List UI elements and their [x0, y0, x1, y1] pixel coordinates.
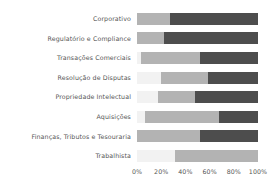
category-label: Finanças, Tributos e Tesouraria: [2, 127, 134, 147]
stacked-bar: [137, 111, 258, 123]
chart-row: Trabalhista: [0, 146, 271, 166]
stacked-bar: [137, 150, 258, 162]
bar-segment: [195, 91, 258, 103]
bar-segment: [200, 130, 258, 142]
chart-row: Corporativo: [0, 9, 271, 29]
chart-row: Transações Comerciais: [0, 48, 271, 68]
stacked-bar: [137, 13, 258, 25]
category-label: Resolução de Disputas: [2, 68, 134, 88]
category-label: Regulatório e Compliance: [2, 29, 134, 49]
chart-row: Resolução de Disputas: [0, 68, 271, 88]
bar-segment: [158, 91, 196, 103]
x-axis: 0%20%40%60%80%100%: [137, 168, 258, 180]
category-label: Propriedade Intelectual: [2, 87, 134, 107]
bar-segment: [137, 111, 145, 123]
stacked-bar: [137, 52, 258, 64]
bar-segment: [208, 72, 258, 84]
bar-segment: [137, 32, 164, 44]
bar-segment: [137, 150, 175, 162]
category-label: Trabalhista: [2, 146, 134, 166]
bar-segment: [137, 13, 170, 25]
bar-segment: [141, 52, 200, 64]
bar-segment: [161, 72, 208, 84]
category-label: Aquisições: [2, 107, 134, 127]
chart-row: Finanças, Tributos e Tesouraria: [0, 127, 271, 147]
bar-segment: [175, 150, 258, 162]
stacked-bar: [137, 32, 258, 44]
bar-segment: [137, 130, 200, 142]
x-axis-tick: 0%: [132, 168, 142, 175]
category-label: Corporativo: [2, 9, 134, 29]
stacked-bar-chart: CorporativoRegulatório e ComplianceTrans…: [0, 0, 271, 187]
x-axis-tick: 40%: [178, 168, 192, 175]
category-label: Transações Comerciais: [2, 48, 134, 68]
x-axis-tick: 80%: [227, 168, 241, 175]
x-axis-tick: 20%: [154, 168, 168, 175]
chart-row: Regulatório e Compliance: [0, 29, 271, 49]
bar-segment: [137, 72, 161, 84]
chart-row: Propriedade Intelectual: [0, 87, 271, 107]
stacked-bar: [137, 130, 258, 142]
chart-plot-area: CorporativoRegulatório e ComplianceTrans…: [0, 9, 271, 166]
x-axis-tick: 60%: [202, 168, 216, 175]
bar-segment: [164, 32, 258, 44]
bar-segment: [145, 111, 219, 123]
stacked-bar: [137, 91, 258, 103]
chart-row: Aquisições: [0, 107, 271, 127]
bar-segment: [170, 13, 258, 25]
bar-segment: [137, 91, 158, 103]
stacked-bar: [137, 72, 258, 84]
bar-segment: [200, 52, 258, 64]
x-axis-tick: 100%: [249, 168, 267, 175]
bar-segment: [219, 111, 258, 123]
